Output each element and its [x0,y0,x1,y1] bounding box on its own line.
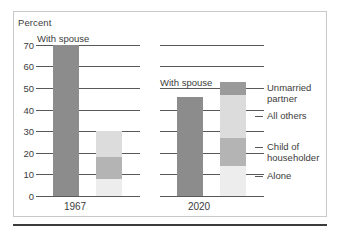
gridline-20-right [160,153,264,154]
y-tick-40: 40 [12,105,34,116]
stacked-bar-1967 [96,131,122,196]
gridline-60-right [160,66,264,67]
stacked-bar-2020 [220,82,246,196]
cropped-title-strip [22,2,318,9]
y-tick-60: 60 [12,61,34,72]
y-tick-10: 10 [12,169,34,180]
gridline-70-left [36,45,140,46]
legend-tick-alone [255,176,263,177]
segment-1967-alone [96,179,122,196]
legend-tick-child-of-householder [255,147,263,148]
gridline-60-left [36,66,140,67]
legend-label-unmarried-partner: Unmarried partner [267,83,311,104]
gridline-40-right [160,110,264,111]
legend-label-all-others: All others [267,111,307,122]
gridline-0-left [36,196,140,197]
y-tick-70: 70 [12,40,34,51]
legend-label-alone: Alone [267,171,291,182]
segment-1967-all-others [96,131,122,157]
segment-2020-child-of-householder [220,138,246,166]
gridline-30-left [36,131,140,132]
y-axis-title: Percent [18,17,51,28]
segment-2020-unmarried-partner [220,82,246,95]
bar-2020-with-spouse [177,97,203,196]
bottom-rule [13,224,327,226]
legend-tick-all-others [255,116,263,117]
segment-2020-all-others [220,95,246,138]
legend-tick-unmarried-partner [255,88,263,89]
bar-1967-with-spouse [53,45,79,196]
callout-with-spouse-2020: With spouse [160,77,212,88]
gridline-50-left [36,88,140,89]
callout-rule-with-spouse-2020 [160,88,220,89]
gridline-10-right [160,174,264,175]
gridline-10-left [36,174,140,175]
segment-1967-child-of-householder [96,157,122,179]
gridline-70-right [160,45,264,46]
gridline-30-right [160,131,264,132]
y-tick-50: 50 [12,83,34,94]
gridline-40-left [36,110,140,111]
chart-figure: Percent 70 60 50 40 30 20 10 0 [0,0,340,233]
x-label-1967: 1967 [45,201,105,212]
callout-with-spouse-1967: With spouse [37,33,89,44]
gridline-0-right [160,196,264,197]
y-tick-30: 30 [12,126,34,137]
segment-2020-alone [220,166,246,196]
gridline-20-left [36,153,140,154]
y-tick-0: 0 [12,191,34,202]
legend-label-child-of-householder: Child of householder [267,142,319,163]
x-label-2020: 2020 [169,201,229,212]
y-tick-20: 20 [12,148,34,159]
